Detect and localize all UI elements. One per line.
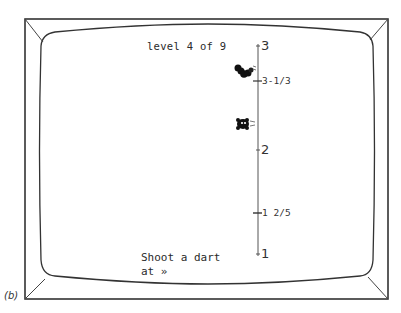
instruction-line-1: Shoot a dart: [141, 251, 220, 264]
figure-caption: (b): [4, 290, 18, 301]
bug-target[interactable]: [236, 118, 255, 130]
marker-label-3-1-3: 3-1/3: [262, 75, 291, 86]
tick-label-1: 1: [261, 246, 269, 261]
level-indicator: level 4 of 9: [147, 40, 226, 52]
instruction-line-2: at »: [141, 265, 168, 278]
marker-label-1-2-5: 1 2/5: [262, 207, 291, 218]
tick-label-2: 2: [261, 142, 269, 157]
worm-target[interactable]: [235, 65, 257, 78]
tick-label-3: 3: [261, 38, 269, 53]
